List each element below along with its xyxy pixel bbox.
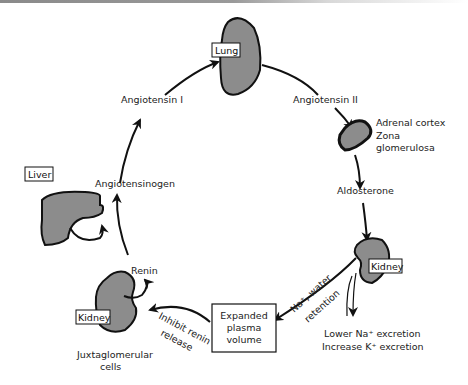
label-zona: Zona: [376, 130, 400, 141]
adrenal-icon: [339, 121, 371, 150]
arrow-ang1-to-lung: [165, 62, 218, 95]
kidney-right-tag: Kidney: [371, 261, 404, 272]
arc-lung-to-ang2: [262, 65, 318, 95]
label-increase-k-excretion: Increase K⁺ excretion: [322, 341, 424, 352]
label-aldosterone: Aldosterone: [337, 185, 394, 196]
expanded-label-2: plasma: [227, 322, 262, 333]
label-adrenal-cortex: Adrenal cortex: [376, 117, 446, 128]
arrow-excretion: [353, 273, 356, 315]
arrow-liver-to-angiotensinogen: [70, 226, 103, 240]
kidney-left-tag: Kidney: [78, 312, 111, 323]
label-angiotensin-1: Angiotensin I: [121, 94, 183, 105]
label-angiotensinogen: Angiotensinogen: [95, 178, 175, 189]
arrow-adrenal-to-aldosterone: [355, 155, 360, 188]
liver-icon: [41, 192, 103, 245]
label-juxtaglomerular: Juxtaglomerular: [76, 349, 153, 360]
expanded-label-3: volume: [226, 334, 261, 345]
label-lower-na-excretion: Lower Na⁺ excretion: [324, 328, 421, 339]
label-cells: cells: [100, 361, 121, 372]
arrow-renin-to-angiotensinogen: [117, 195, 128, 255]
arrow-angiotensinogen-to-ang1: [120, 120, 140, 183]
label-glomerulosa: glomerulosa: [376, 142, 435, 153]
expanded-label-1: Expanded: [220, 310, 267, 321]
lung-tag: Lung: [215, 45, 238, 56]
urine-line-1: [347, 276, 352, 316]
arrow-aldosterone-to-kidney: [363, 203, 367, 240]
label-angiotensin-2: Angiotensin II: [293, 94, 358, 105]
label-renin: Renin: [131, 265, 158, 276]
liver-tag: Liver: [28, 169, 51, 180]
raas-diagram: Lung Liver Kidney Kidney Expanded plasma…: [0, 0, 468, 385]
